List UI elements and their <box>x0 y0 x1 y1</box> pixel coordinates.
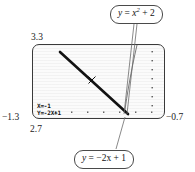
callout-parabola-lhs: y <box>118 8 122 18</box>
callout-line-eq: = <box>89 153 94 163</box>
leader-line-a <box>116 117 125 149</box>
axis-label-left: −1.3 <box>2 113 19 123</box>
parabola-curve <box>125 45 138 113</box>
trace-readout: X=-1 Y=-2X+1 <box>37 103 61 116</box>
callout-parabola-rest: + 2 <box>142 8 154 18</box>
callout-parabola: y = x2 + 2 <box>110 5 163 24</box>
calculator-figure: 3.3 −1.3 2.7 −0.7 <box>0 0 195 172</box>
callout-parabola-exponent: 2 <box>137 6 140 13</box>
y-axis-ticks <box>152 51 153 106</box>
line-curve <box>60 52 128 114</box>
calculator-screen: X=-1 Y=-2X+1 <box>32 44 165 119</box>
axis-label-top: 3.3 <box>31 33 43 43</box>
readout-y: Y=-2X+1 <box>37 110 61 117</box>
axis-label-bottom: 2.7 <box>30 125 42 135</box>
callout-line-rest: −2x + 1 <box>96 153 126 163</box>
axis-label-right: −0.7 <box>166 113 183 123</box>
callout-line-lhs: y <box>82 153 86 163</box>
x-axis-ticks <box>55 112 152 113</box>
callout-parabola-eq: = <box>125 8 130 18</box>
callout-line: y = −2x + 1 <box>74 150 134 169</box>
